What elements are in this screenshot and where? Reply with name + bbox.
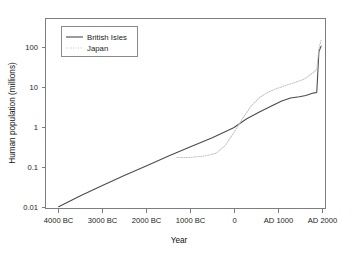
x-tick-label-ad1000: AD 1000 xyxy=(264,216,294,225)
chart-figure: 100 10 1 0.1 0.01 4000 BC 3000 BC 2000 B… xyxy=(0,0,352,254)
y-tick-label-0.1: 0.1 xyxy=(27,163,38,172)
y-axis-title: Human population (millions) xyxy=(8,62,17,164)
x-tick-label-3000bc: 3000 BC xyxy=(88,216,118,225)
x-axis-title: Year xyxy=(171,236,188,245)
population-line-chart: 100 10 1 0.1 0.01 4000 BC 3000 BC 2000 B… xyxy=(0,0,352,254)
x-tick-label-0: 0 xyxy=(232,216,236,225)
series-line-japan xyxy=(177,40,321,157)
x-axis-ticks xyxy=(59,209,323,213)
y-tick-label-10: 10 xyxy=(30,83,38,92)
x-tick-label-2000bc: 2000 BC xyxy=(132,216,162,225)
x-tick-label-ad2000: AD 2000 xyxy=(308,216,338,225)
legend-label-japan: Japan xyxy=(87,44,108,53)
y-axis-ticks xyxy=(42,48,46,208)
chart-legend: British Isles Japan xyxy=(62,27,138,57)
x-tick-label-1000bc: 1000 BC xyxy=(176,216,206,225)
legend-label-british-isles: British Isles xyxy=(87,33,127,42)
series-line-british-isles xyxy=(59,46,322,207)
y-tick-label-0.01: 0.01 xyxy=(23,203,38,212)
x-tick-label-4000bc: 4000 BC xyxy=(44,216,74,225)
y-tick-label-1: 1 xyxy=(34,123,38,132)
y-tick-label-100: 100 xyxy=(25,43,38,52)
